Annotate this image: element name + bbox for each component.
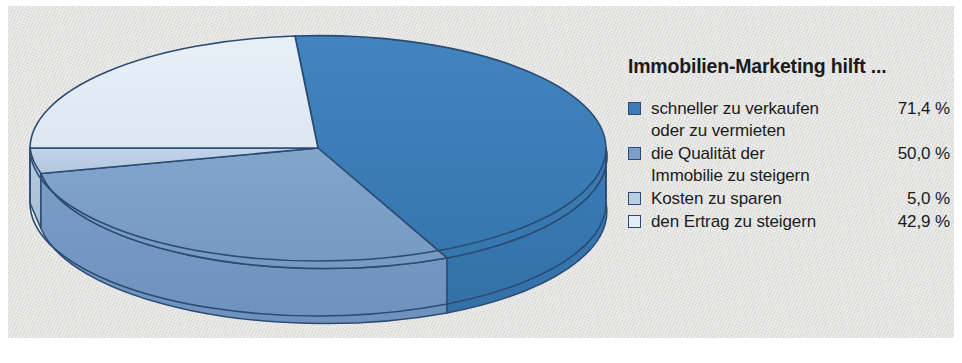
legend-title: Immobilien-Marketing hilft ... [628,55,950,78]
legend-swatch-ertrag [628,215,641,228]
legend-label-ertrag-line1: den Ertrag zu steigern [651,212,816,231]
pie-slice-ertrag [30,36,318,148]
legend-label-qualitaet-line2: Immobilie zu steigern [651,165,878,187]
pie-3d-body [30,36,607,324]
legend-item-ertrag[interactable]: den Ertrag zu steigern 42,9 % [628,211,950,233]
legend-label-kosten: Kosten zu sparen [651,188,878,210]
legend-swatch-schneller [628,102,641,115]
legend-label-qualitaet-line1: die Qualität der [651,144,765,163]
legend-item-schneller[interactable]: schneller zu verkaufen oder zu vermieten… [628,98,950,142]
legend-item-qualitaet[interactable]: die Qualität der Immobilie zu steigern 5… [628,143,950,187]
legend-label-qualitaet: die Qualität der Immobilie zu steigern [651,143,878,187]
legend-swatch-kosten [628,192,641,205]
legend-label-kosten-line1: Kosten zu sparen [651,189,782,208]
legend-label-schneller: schneller zu verkaufen oder zu vermieten [651,98,878,142]
legend-label-schneller-line1: schneller zu verkaufen [651,99,819,118]
legend-value-ertrag: 42,9 % [878,211,950,233]
legend-label-schneller-line2: oder zu vermieten [651,120,878,142]
legend-value-qualitaet: 50,0 % [878,143,950,165]
legend-item-kosten[interactable]: Kosten zu sparen 5,0 % [628,188,950,210]
legend-value-kosten: 5,0 % [878,188,950,210]
legend-swatch-qualitaet [628,147,641,160]
legend-value-schneller: 71,4 % [878,98,950,120]
legend-label-ertrag: den Ertrag zu steigern [651,211,878,233]
chart-page: Immobilien-Marketing hilft ... schneller… [0,0,962,363]
legend: Immobilien-Marketing hilft ... schneller… [628,55,950,234]
